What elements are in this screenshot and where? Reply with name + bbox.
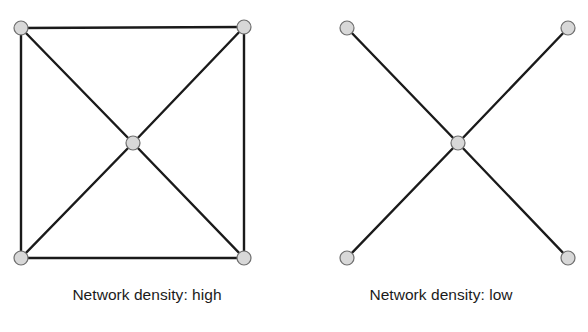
- network-edge: [21, 143, 133, 258]
- caption-network-density-low: Network density: low: [294, 285, 588, 304]
- network-node-center: [126, 136, 140, 150]
- network-node-top-left: [14, 21, 28, 35]
- network-graph-low-density: [294, 0, 588, 285]
- network-node-top-left: [340, 21, 354, 35]
- network-edge: [21, 27, 244, 28]
- network-edge: [458, 143, 568, 258]
- panel-network-density-high: Network density: high: [0, 0, 294, 332]
- panel-network-density-low: Network density: low: [294, 0, 588, 332]
- network-edge: [133, 143, 244, 258]
- network-node-bottom-right: [561, 251, 575, 265]
- network-node-center: [451, 136, 465, 150]
- network-edge: [347, 28, 458, 143]
- network-edge: [347, 143, 458, 258]
- network-node-top-right: [561, 21, 575, 35]
- network-node-bottom-right: [237, 251, 251, 265]
- network-node-bottom-left: [14, 251, 28, 265]
- network-node-top-right: [237, 20, 251, 34]
- network-density-figure: Network density: high Network density: l…: [0, 0, 588, 332]
- network-node-bottom-left: [340, 251, 354, 265]
- network-edge: [133, 27, 244, 143]
- network-graph-high-density: [0, 0, 294, 285]
- network-edge: [21, 28, 133, 143]
- network-edge: [458, 28, 568, 143]
